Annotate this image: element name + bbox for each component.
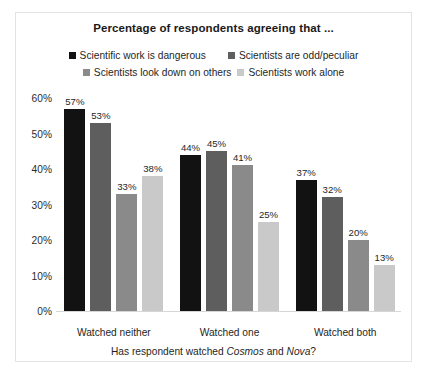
bar-slot: 37%: [296, 98, 317, 311]
legend-row: Scientific work is dangerous Scientists …: [16, 47, 411, 64]
legend-entry-scientists-are-odd-peculiar: Scientists are odd/peculiar: [228, 50, 358, 61]
bar[interactable]: [116, 194, 137, 311]
legend-swatch-icon: [228, 52, 235, 59]
bar[interactable]: [64, 109, 85, 311]
legend-entry-scientists-look-down-on-others: Scientists look down on others: [83, 67, 232, 78]
legend-swatch-icon: [69, 52, 76, 59]
chart-legend: Scientific work is dangerous Scientists …: [16, 47, 411, 81]
bar-value-label: 45%: [198, 138, 235, 149]
bar-slot: 33%: [116, 98, 137, 311]
y-axis-tick-label: 10%: [15, 270, 52, 281]
bar-slot: 38%: [142, 98, 163, 311]
bar-value-label: 41%: [224, 152, 261, 163]
x-axis-title-show-name: Cosmos: [227, 346, 264, 357]
x-axis-category-label: Watched neither: [77, 327, 151, 338]
bar-value-label: 53%: [82, 110, 119, 121]
bar-value-label: 33%: [108, 181, 145, 192]
x-axis-category-label: Watched both: [314, 327, 376, 338]
y-axis-tick-label: 60%: [15, 93, 52, 104]
bar-slot: 57%: [64, 98, 85, 311]
bar[interactable]: [206, 151, 227, 311]
bar-value-label: 38%: [134, 163, 171, 174]
bar-slot: 44%: [180, 98, 201, 311]
x-axis-title-text: and: [264, 346, 287, 357]
bar[interactable]: [322, 197, 343, 311]
y-axis-tick-label: 40%: [15, 164, 52, 175]
bar-value-label: 25%: [250, 209, 287, 220]
x-axis-title-text: Has respondent watched: [111, 346, 227, 357]
y-axis-tick-label: 20%: [15, 235, 52, 246]
legend-label: Scientists look down on others: [94, 67, 232, 78]
legend-swatch-icon: [237, 69, 244, 76]
bar[interactable]: [348, 240, 369, 311]
bar-slot: 20%: [348, 98, 369, 311]
x-axis-category-label: Watched one: [200, 327, 260, 338]
y-axis-tick-label: 50%: [15, 128, 52, 139]
bar-slot: 13%: [374, 98, 395, 311]
bar-slot: 25%: [258, 98, 279, 311]
bar[interactable]: [90, 123, 111, 311]
legend-row: Scientists look down on others Scientist…: [16, 64, 411, 81]
legend-swatch-icon: [83, 69, 90, 76]
bar[interactable]: [258, 222, 279, 311]
legend-entry-scientists-work-alone: Scientists work alone: [237, 67, 344, 78]
y-axis: 60%50%40%30%20%10%0%: [16, 98, 52, 311]
bar-slot: 53%: [90, 98, 111, 311]
plot-area: 57%53%33%38%44%45%41%25%37%32%20%13%: [56, 98, 401, 311]
bar-group: 57%53%33%38%: [56, 98, 172, 311]
legend-label: Scientists are odd/peculiar: [239, 50, 358, 61]
bar-value-label: 13%: [366, 252, 403, 263]
x-axis-title-text: ?: [310, 346, 316, 357]
legend-label: Scientific work is dangerous: [80, 50, 206, 61]
bar-slot: 41%: [232, 98, 253, 311]
bar-value-label: 32%: [314, 184, 351, 195]
bar-value-label: 57%: [56, 96, 93, 107]
chart-title: Percentage of respondents agreeing that …: [16, 22, 411, 34]
legend-entry-scientific-work-is-dangerous: Scientific work is dangerous: [69, 50, 206, 61]
y-axis-tick-label: 0%: [15, 306, 52, 317]
bar-value-label: 20%: [340, 227, 377, 238]
bar-group: 44%45%41%25%: [172, 98, 288, 311]
x-axis-title-show-name: Nova: [287, 346, 311, 357]
y-axis-tick-label: 30%: [15, 199, 52, 210]
bar[interactable]: [180, 155, 201, 311]
axis-baseline: [56, 311, 401, 312]
bar[interactable]: [296, 180, 317, 311]
x-axis-title: Has respondent watched Cosmos and Nova?: [16, 346, 411, 357]
bar[interactable]: [142, 176, 163, 311]
bar-slot: 32%: [322, 98, 343, 311]
bar-group: 37%32%20%13%: [287, 98, 403, 311]
chart-figure: Percentage of respondents agreeing that …: [15, 12, 412, 362]
bar-value-label: 37%: [288, 167, 325, 178]
bar-slot: 45%: [206, 98, 227, 311]
bar[interactable]: [232, 165, 253, 311]
legend-label: Scientists work alone: [248, 67, 344, 78]
bar[interactable]: [374, 265, 395, 311]
